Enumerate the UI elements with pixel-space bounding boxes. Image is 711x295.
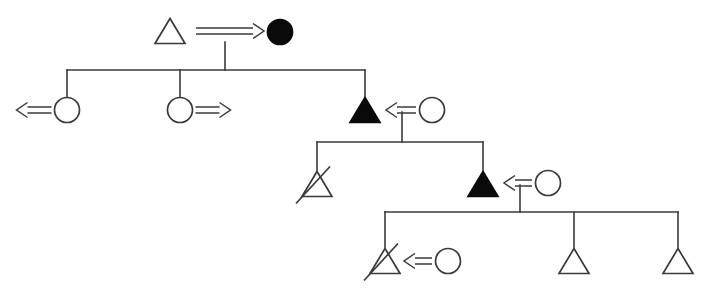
- individual-male-unaffected[interactable]: [155, 19, 185, 44]
- arrow-layer: [17, 24, 533, 269]
- individual-male-unaffected[interactable]: [663, 249, 693, 274]
- individual-female-unaffected[interactable]: [168, 98, 193, 123]
- pedigree-diagram: [0, 0, 711, 295]
- connector-layer: [67, 42, 678, 247]
- individual-female-unaffected[interactable]: [436, 249, 461, 274]
- individual-female-affected[interactable]: [268, 20, 293, 45]
- double-arrow-icon: [386, 103, 416, 118]
- individual-female-unaffected[interactable]: [420, 98, 445, 123]
- double-arrow-icon: [196, 24, 264, 39]
- individual-male-unaffected[interactable]: [559, 249, 589, 274]
- individual-male-affected[interactable]: [468, 172, 498, 197]
- pedigree-canvas: [0, 0, 711, 295]
- individual-female-unaffected[interactable]: [536, 171, 561, 196]
- double-arrow-icon: [504, 176, 532, 191]
- double-arrow-icon: [17, 103, 52, 118]
- symbol-layer: [55, 19, 694, 281]
- double-arrow-icon: [196, 103, 231, 118]
- individual-male-affected[interactable]: [350, 98, 380, 123]
- individual-female-unaffected[interactable]: [55, 98, 80, 123]
- double-arrow-icon: [404, 254, 432, 269]
